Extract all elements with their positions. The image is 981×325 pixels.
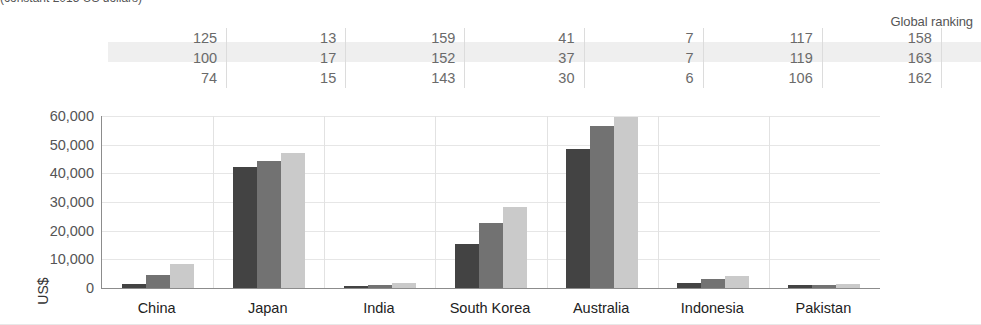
bar-group	[213, 116, 324, 288]
x-axis-label: Australia	[546, 295, 657, 321]
bar-group	[769, 116, 880, 288]
x-axis-labels: ChinaJapanIndiaSouth KoreaAustraliaIndon…	[101, 295, 879, 321]
x-axis-label: India	[323, 295, 434, 321]
bar	[503, 207, 527, 288]
y-axis-tick-label: 20,000	[50, 223, 94, 239]
bar	[788, 285, 812, 288]
y-axis-tick-label: 0	[86, 280, 94, 296]
bar	[677, 283, 701, 288]
ranking-row: 74151433061061622020	[108, 68, 981, 88]
bar	[566, 149, 590, 288]
chart-subtitle: (constant 2015 US dollars)	[0, 0, 142, 7]
ranking-grid: 1251315941711715820001001715237711916320…	[108, 28, 981, 88]
x-axis-label: Japan	[212, 295, 323, 321]
bar	[590, 126, 614, 288]
x-axis-label: Pakistan	[768, 295, 879, 321]
y-axis-tick-label: 10,000	[50, 251, 94, 267]
ranking-cell: 15	[227, 68, 346, 88]
bar	[146, 275, 170, 288]
bar	[170, 264, 194, 288]
bar	[614, 117, 638, 288]
ranking-cell: 106	[703, 68, 822, 88]
ranking-cell: 162	[822, 68, 941, 88]
ranking-cell: 7	[584, 28, 703, 48]
bar-group	[435, 116, 546, 288]
x-axis-label: South Korea	[434, 295, 545, 321]
ranking-year-label: 2010	[941, 48, 981, 68]
bar-group	[658, 116, 769, 288]
bar	[233, 167, 257, 288]
ranking-cell: 6	[584, 68, 703, 88]
ranking-cell: 13	[227, 28, 346, 48]
chart-page: (constant 2015 US dollars) Global rankin…	[0, 0, 981, 325]
bar	[281, 153, 305, 288]
bar	[725, 276, 749, 288]
ranking-cell: 158	[822, 28, 941, 48]
ranking-cell: 41	[465, 28, 584, 48]
ranking-cell: 17	[227, 48, 346, 68]
ranking-cell: 143	[346, 68, 465, 88]
y-axis-tick-label: 40,000	[50, 165, 94, 181]
y-axis-tick-label: 60,000	[50, 108, 94, 124]
y-axis-ticks: 60,00050,00040,00030,00020,00010,0000	[0, 105, 100, 295]
chart-area: US$ 60,00050,00040,00030,00020,00010,000…	[0, 105, 981, 325]
bar	[257, 161, 281, 288]
ranking-cell: 7	[584, 48, 703, 68]
bar	[344, 286, 368, 288]
bar	[701, 279, 725, 288]
ranking-row: 100171523771191632010	[108, 48, 981, 68]
bar-groups	[102, 116, 880, 288]
bar-group	[102, 116, 213, 288]
ranking-row: 125131594171171582000	[108, 28, 981, 48]
bar-group	[547, 116, 658, 288]
ranking-year-label: 2020	[941, 68, 981, 88]
bar-group	[324, 116, 435, 288]
x-axis-label: China	[101, 295, 212, 321]
bar	[479, 223, 503, 288]
bar	[812, 285, 836, 288]
bar	[368, 285, 392, 288]
plot-area	[101, 116, 880, 289]
x-axis-label: Indonesia	[657, 295, 768, 321]
global-ranking-table: Global ranking 1251315941711715820001001…	[0, 14, 981, 100]
y-axis-tick-label: 30,000	[50, 194, 94, 210]
bar	[836, 284, 860, 288]
ranking-cell: 119	[703, 48, 822, 68]
ranking-cell: 117	[703, 28, 822, 48]
ranking-cell: 159	[346, 28, 465, 48]
ranking-cell: 37	[465, 48, 584, 68]
ranking-cell: 74	[108, 68, 227, 88]
ranking-year-label: 2000	[941, 28, 981, 48]
ranking-cell: 163	[822, 48, 941, 68]
bar	[122, 284, 146, 288]
ranking-cell: 100	[108, 48, 227, 68]
ranking-cell: 30	[465, 68, 584, 88]
ranking-cell: 125	[108, 28, 227, 48]
ranking-cell: 152	[346, 48, 465, 68]
bar	[392, 283, 416, 288]
bar	[455, 244, 479, 288]
y-axis-tick-label: 50,000	[50, 137, 94, 153]
global-ranking-header: Global ranking	[891, 14, 973, 29]
